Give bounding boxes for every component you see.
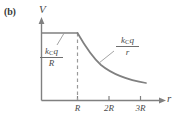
x-tick-label-R: R [75,103,81,113]
annotation-outside-numerator: kCq [116,36,139,46]
annotation-outside-denominator: r [116,48,139,57]
annotation-kcq-over-r: kCq r [116,36,139,57]
annotation-inside-denominator: R [40,59,63,68]
y-axis-label: V [39,3,46,15]
leader-line-outside [99,51,114,63]
potential-vs-radius-figure: (b) V r R 2R 3R [0,0,176,120]
q-symbol: q [129,35,134,45]
annotation-inside-numerator: kCq [40,47,63,57]
q-symbol: q [53,46,58,56]
x-tick-label-2R: 2R [104,103,114,113]
leader-line-inside [57,33,65,46]
x-tick-label-3R: 3R [136,103,146,113]
annotation-kcq-over-R: kCq R [40,47,63,68]
x-axis-arrowhead [159,98,166,104]
x-axis-label: r [167,92,171,104]
plot-canvas [0,0,176,120]
y-axis-arrowhead [39,17,45,24]
